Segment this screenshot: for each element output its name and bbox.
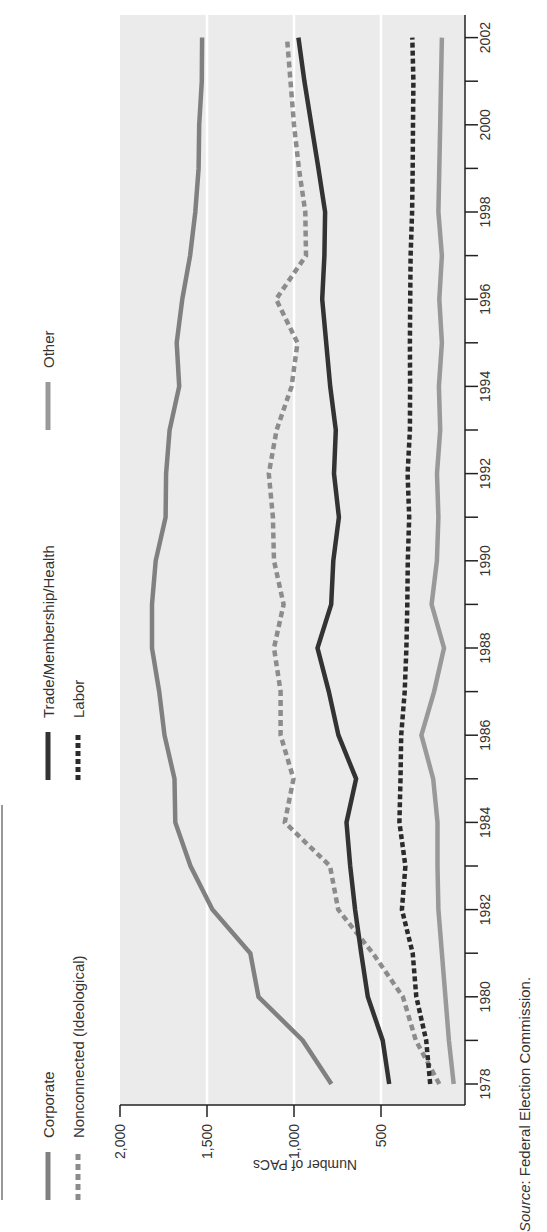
y-axis-title: Number of PACs xyxy=(253,1157,357,1173)
year-tick-label: 1998 xyxy=(477,196,493,227)
legend-label: Other xyxy=(40,330,57,368)
year-tick-label: 2002 xyxy=(477,22,493,53)
value-tick-label: 1,000 xyxy=(286,1124,302,1159)
year-tick-label: 2000 xyxy=(477,109,493,140)
year-tick-label: 1986 xyxy=(477,719,493,750)
year-tick-label: 1996 xyxy=(477,283,493,314)
legend-label: Corporate xyxy=(40,1071,57,1138)
legend-label: Labor xyxy=(70,680,87,718)
year-tick-label: 1992 xyxy=(477,458,493,489)
year-tick-label: 1978 xyxy=(477,1068,493,1099)
value-axis-ticks: 5001,0001,5002,000 xyxy=(112,1105,389,1159)
value-tick-label: 1,500 xyxy=(199,1124,215,1159)
legend: CorporateNonconnected (Ideological)Trade… xyxy=(2,330,87,1200)
year-tick-label: 1982 xyxy=(477,894,493,925)
source-note: Source: Federal Election Commission. xyxy=(516,977,533,1232)
year-tick-label: 1980 xyxy=(477,981,493,1012)
legend-label: Nonconnected (Ideological) xyxy=(70,955,87,1138)
pac-line-chart: 5001,0001,5002,000 197819801982198419861… xyxy=(0,0,547,1232)
source-prefix: Source xyxy=(516,1184,533,1232)
source-text: : Federal Election Commission. xyxy=(516,977,533,1185)
legend-label: Trade/Membership/Health xyxy=(40,545,57,718)
value-tick-label: 500 xyxy=(373,1124,389,1148)
year-axis-ticks: 1978198019821984198619881990199219941996… xyxy=(465,22,493,1100)
year-tick-label: 1988 xyxy=(477,632,493,663)
year-tick-label: 1994 xyxy=(477,371,493,402)
year-tick-label: 1990 xyxy=(477,545,493,576)
plot-area xyxy=(120,15,465,1105)
year-tick-label: 1984 xyxy=(477,807,493,838)
value-tick-label: 2,000 xyxy=(112,1124,128,1159)
